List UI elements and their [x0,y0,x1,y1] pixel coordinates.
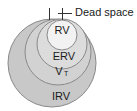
dead-space-label: Dead space [75,6,134,18]
label-irv: IRV [52,90,71,102]
dead-space-bracket-icon [50,8,73,20]
label-vt: V [55,65,63,77]
diagram-canvas: RV ERV V T IRV Dead space [0,0,137,111]
lung-volumes-figure: RV ERV V T IRV Dead space [0,0,137,111]
label-erv: ERV [53,50,76,62]
label-rv: RV [54,24,70,36]
label-vt-subscript: T [64,70,69,77]
